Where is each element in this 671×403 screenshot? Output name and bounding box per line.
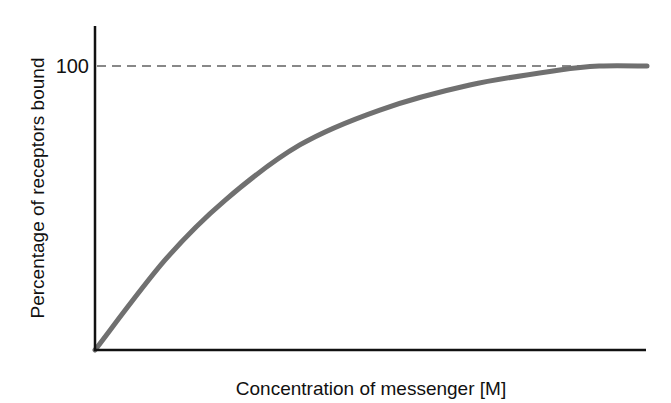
y-axis-label: Percentage of receptors bound — [27, 58, 49, 319]
x-axis-label: Concentration of messenger [M] — [236, 378, 506, 400]
y-tick-100: 100 — [56, 55, 89, 78]
binding-curve — [95, 66, 647, 350]
chart-canvas — [0, 0, 671, 403]
